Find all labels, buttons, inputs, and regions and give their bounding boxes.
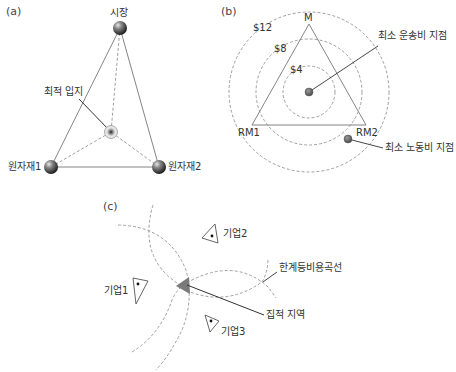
agglomeration-pointer-line xyxy=(187,285,264,315)
panel-b xyxy=(229,12,389,172)
optimal-location-label: 최적 입지 xyxy=(44,86,83,98)
raw-material-1-sphere-icon xyxy=(44,160,58,174)
isodapane-pointer-line xyxy=(263,272,277,282)
firm-3-label: 기업3 xyxy=(221,326,245,338)
min-transport-point-icon xyxy=(305,88,313,96)
optimal-location-marker xyxy=(105,126,118,139)
firm-1-label: 기업1 xyxy=(104,285,128,297)
panel-c-label: (c) xyxy=(103,201,118,213)
min-labor-label: 최소 노동비 지점 xyxy=(385,142,454,154)
raw-material-2-label: 원자재2 xyxy=(168,161,201,173)
market-sphere-icon xyxy=(113,21,127,35)
rm2-label: RM2 xyxy=(356,127,378,139)
panel-a-label: (a) xyxy=(6,6,21,18)
diagram-canvas xyxy=(0,0,456,372)
firm-3-icon xyxy=(205,315,219,332)
isodapane-8-label: $8 xyxy=(274,43,287,55)
min-labor-pointer-line xyxy=(348,139,383,148)
panel-b-label: (b) xyxy=(221,6,237,18)
raw-material-2-sphere-icon xyxy=(152,160,166,174)
market-label: 시장 xyxy=(110,7,128,19)
raw-material-1-label: 원자재1 xyxy=(8,161,41,173)
weber-location-diagrams: (a) 시장 최적 입지 원자재1 원자재2 (b) M $12 $8 $4 R… xyxy=(0,0,456,372)
firm-1-icon xyxy=(133,278,148,304)
panel-c xyxy=(118,205,277,370)
optimal-pointer-line xyxy=(79,99,110,131)
critical-isodapane-label: 한계등비용곡선 xyxy=(279,262,342,274)
isodapane-12-label: $12 xyxy=(253,22,272,34)
firm-2-icon xyxy=(202,224,218,243)
market-m-label: M xyxy=(304,12,313,24)
min-labor-point-icon xyxy=(344,135,352,143)
agglomeration-label: 집적 지역 xyxy=(266,309,305,321)
firm-2-label: 기업2 xyxy=(223,228,247,240)
min-transport-label: 최소 운송비 지점 xyxy=(378,30,447,42)
rm-triangle xyxy=(252,24,366,125)
rm1-label: RM1 xyxy=(238,127,260,139)
isodapane-4-label: $4 xyxy=(290,64,303,76)
